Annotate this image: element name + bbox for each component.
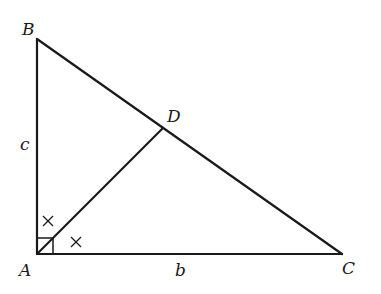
vertex-label-a: A — [17, 260, 31, 280]
side-bc — [37, 39, 342, 254]
angle-mark-lower-icon — [71, 237, 81, 247]
vertex-label-b: B — [21, 19, 35, 39]
triangle-diagram: B A C D c b — [0, 0, 381, 294]
vertex-label-c: C — [342, 258, 355, 278]
point-label-d: D — [166, 106, 181, 126]
bisector-ad — [37, 128, 163, 254]
side-label-b: b — [175, 260, 186, 280]
angle-mark-upper-icon — [43, 216, 53, 226]
side-label-c: c — [20, 134, 30, 154]
